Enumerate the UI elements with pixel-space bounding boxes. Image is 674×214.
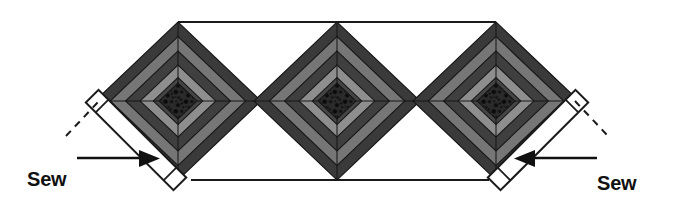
quilt-diagram-stage: Sew first Sew first [0, 0, 674, 214]
quilt-assembly-diagram [0, 0, 674, 214]
sew-first-label-left: Sew first [27, 123, 66, 214]
sew-first-left-line1: Sew [27, 168, 66, 190]
sew-first-label-right: Sew first [597, 127, 636, 214]
sew-first-right-line1: Sew [597, 172, 636, 194]
